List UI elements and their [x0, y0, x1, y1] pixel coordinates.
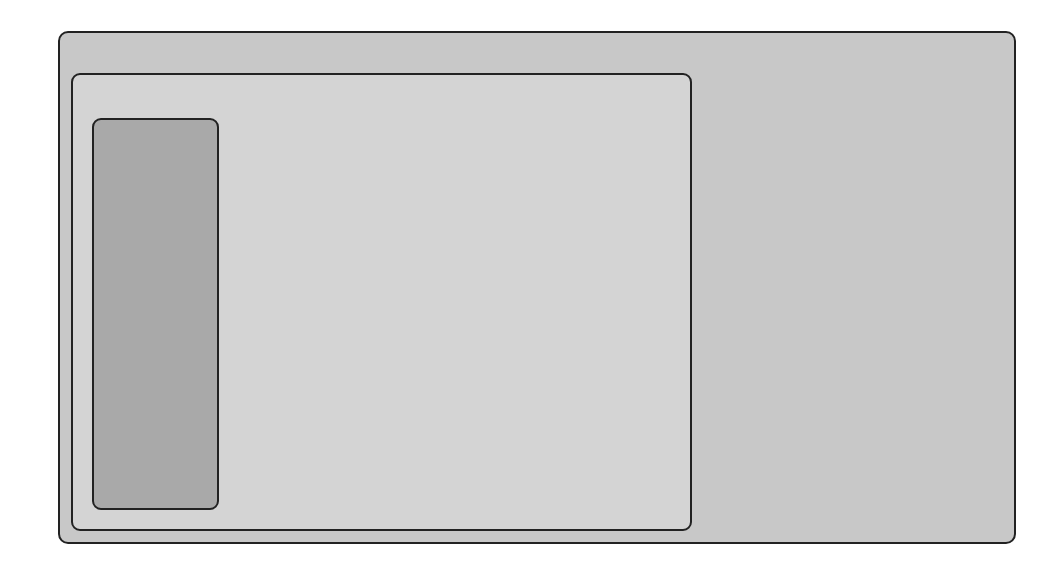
granularity-index-column — [92, 118, 219, 510]
